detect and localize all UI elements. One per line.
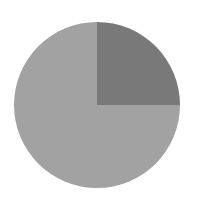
pie-chart <box>0 0 209 206</box>
pie-slice-1 <box>97 22 180 105</box>
pie-slices <box>14 22 180 188</box>
